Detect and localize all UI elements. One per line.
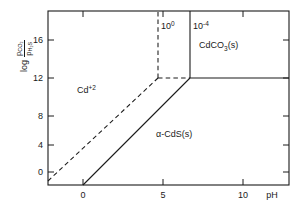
label-alpha-cds-region: α-CdS(s): [156, 129, 192, 139]
ytick-label-8: 8: [38, 111, 43, 121]
x-axis-ticks: [83, 11, 243, 185]
x-axis-title: pH: [266, 190, 278, 200]
label-cdco3-base: CdCO: [199, 40, 224, 50]
label-activity-2-base: 10: [193, 21, 203, 31]
label-activity-1-base: 10: [161, 21, 171, 31]
label-cd-ion-base: Cd: [77, 85, 89, 95]
label-cd-ion-sup: +2: [89, 84, 97, 91]
plot-frame: [48, 11, 289, 185]
xtick-label-10: 10: [238, 190, 248, 200]
ytick-label-4: 4: [38, 140, 43, 150]
xtick-label-5: 5: [160, 190, 165, 200]
label-activity-1e-4: 10-4: [193, 20, 209, 31]
label-cdco3-region: CdCO3(s): [199, 40, 238, 52]
ytick-label-12: 12: [33, 73, 43, 83]
ytick-label-0: 0: [38, 167, 43, 177]
label-activity-1: 100: [161, 20, 175, 31]
ytick-label-16: 16: [33, 35, 43, 45]
phase-diagram-svg: 0 5 10 pH 0 4 8 12 16 Cd+2 CdCO3(s) α-Cd…: [0, 0, 305, 216]
xtick-label-0: 0: [80, 190, 85, 200]
label-cdco3-tail: (s): [228, 40, 239, 50]
label-activity-2-exp: -4: [203, 20, 209, 27]
y-axis-ticks: [48, 40, 289, 172]
label-activity-1-exp: 0: [171, 20, 175, 27]
label-cd-ion-region: Cd+2: [77, 84, 96, 95]
phase-diagram-figure: 0 5 10 pH 0 4 8 12 16 Cd+2 CdCO3(s) α-Cd…: [0, 0, 305, 216]
